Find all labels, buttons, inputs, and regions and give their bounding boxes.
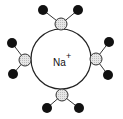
hydrogen-atom [42, 103, 52, 113]
ion-symbol: Na [53, 57, 66, 68]
water-molecule-bottom [42, 89, 84, 113]
oxygen-atom [55, 18, 67, 30]
hydrogen-atom [104, 37, 114, 47]
oxygen-atom [19, 54, 31, 66]
hydrogen-atom [73, 5, 83, 15]
hydrogen-atom [8, 69, 18, 79]
ion-label: Na [53, 57, 66, 68]
hydrogen-atom [103, 70, 113, 80]
water-molecule-left [7, 38, 31, 79]
hydrogen-atom [74, 103, 84, 113]
hydrogen-atom [7, 38, 17, 48]
water-molecule-right [90, 37, 114, 80]
water-molecule-top [38, 5, 83, 30]
oxygen-atom [90, 53, 102, 65]
hydrated-sodium-diagram: Na + [0, 0, 123, 119]
oxygen-atom [56, 89, 68, 101]
hydrogen-atom [38, 5, 48, 15]
ion-charge: + [66, 51, 71, 61]
